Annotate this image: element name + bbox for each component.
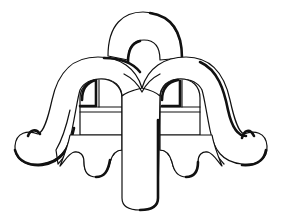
right-lower-body bbox=[160, 135, 222, 177]
center-stem bbox=[122, 88, 160, 210]
left-lower-body bbox=[60, 135, 122, 177]
ornament-glyph-icon bbox=[0, 0, 282, 224]
left-window bbox=[80, 79, 122, 136]
top-arch bbox=[108, 12, 182, 62]
right-window bbox=[160, 79, 200, 136]
